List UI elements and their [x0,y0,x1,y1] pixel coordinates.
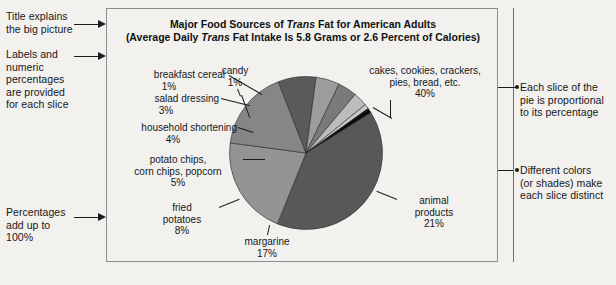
slice-label-fried-potatoes: fried potatoes 8% [149,202,215,237]
annotation-title-explains-text: Title explains the big picture [6,10,73,35]
slice-label-margarine-value: 17% [229,248,305,260]
slice-label-household-shortening-text: household shortening [109,122,237,134]
slice-label-margarine-text: margarine [229,236,305,248]
arrowhead-percent [98,213,106,221]
slice-label-fried-potatoes-value: 8% [149,225,215,237]
slice-leader-cakes-cookies-v [390,100,391,118]
slice-label-margarine: margarine 17% [229,236,305,259]
annotation-labels-percentages: Labels and numeric percentages are provi… [6,48,92,111]
annotation-percent-total-text: Percentages add up to 100% [6,206,66,243]
slice-label-breakfast-cereal: breakfast cereal 1% [113,69,225,92]
slice-label-potato-chips-text: potato chips, corn chips, popcorn [115,154,241,177]
slice-label-salad-dressing: salad dressing 3% [113,93,219,116]
slice-label-salad-dressing-value: 3% [113,105,219,117]
slice-label-salad-dressing-value-text: 3% [159,105,173,116]
slice-label-household-shortening-value-text: 4% [166,134,180,145]
arrowhead-title [98,20,106,28]
slice-label-potato-chips: potato chips, corn chips, popcorn 5% [115,154,241,189]
slice-label-household-shortening-value: 4% [109,134,237,146]
annotation-percent-total: Percentages add up to 100% [6,206,98,244]
slice-label-cakes-cookies: cakes, cookies, crackers, pies, bread, e… [355,65,495,100]
slice-label-salad-dressing-text: salad dressing [113,93,219,105]
annotation-labels-percentages-text: Labels and numeric percentages are provi… [6,48,69,110]
annotation-proportional: Each slice of the pie is proportional to… [520,81,614,119]
slice-label-animal-products: animal products 21% [398,195,470,230]
slice-leader-potato-chips [243,159,265,160]
leader-dot-colors [515,168,519,172]
slice-label-animal-products-value: 21% [398,218,470,230]
right-rail-line [513,8,514,262]
chart-figure-frame: Major Food Sources of Trans Fat for Amer… [106,8,498,262]
leader-line-labels [74,56,100,57]
screenshot-root: Title explains the big picture Labels an… [0,0,616,285]
leader-line-percent [74,217,100,218]
leader-dot-proportional [515,85,519,89]
slice-label-breakfast-cereal-text: breakfast cereal [113,69,225,81]
annotation-title-explains: Title explains the big picture [6,10,90,35]
slice-label-potato-chips-value: 5% [115,177,241,189]
leader-line-title [74,24,100,25]
annotation-proportional-text: Each slice of the pie is proportional to… [520,81,604,118]
slice-label-breakfast-cereal-value-text: 1% [162,81,176,92]
slice-label-household-shortening: household shortening 4% [109,122,237,145]
annotation-colors-text: Different colors (or shades) make each s… [520,164,603,201]
slice-label-breakfast-cereal-value: 1% [113,81,225,93]
slice-label-animal-products-text: animal products [398,195,470,218]
slice-label-cakes-cookies-text: cakes, cookies, crackers, pies, bread, e… [355,65,495,88]
arrowhead-labels [98,52,106,60]
annotation-colors: Different colors (or shades) make each s… [520,164,616,202]
slice-label-fried-potatoes-text: fried potatoes [149,202,215,225]
slice-label-cakes-cookies-value: 40% [355,88,495,100]
